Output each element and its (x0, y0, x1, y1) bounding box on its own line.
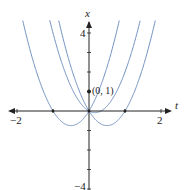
parabola-curve-1 (23, 21, 119, 126)
x-tick-label-4: 4 (80, 27, 86, 39)
point-marker (52, 110, 55, 113)
t-axis-label: t (175, 99, 179, 111)
parabola-family-plot: t x −2 2 4 −4 (0, 1) (0, 0, 184, 190)
point-label-0-1: (0, 1) (92, 85, 114, 97)
x-axis-label: x (84, 7, 90, 19)
point-marker (87, 90, 91, 94)
point-marker (124, 110, 127, 113)
t-tick-label-2: 2 (157, 114, 163, 126)
chart-canvas: t x −2 2 4 −4 (0, 1) (0, 0, 184, 190)
t-axis-right-arrow-icon (165, 108, 172, 114)
x-tick-label-neg4: −4 (74, 180, 86, 190)
point-marker (88, 110, 91, 113)
parabola-curve-2 (59, 21, 155, 126)
x-axis-up-arrow-icon (86, 21, 92, 28)
axes (8, 21, 172, 190)
t-tick-label-neg2: −2 (10, 114, 22, 126)
